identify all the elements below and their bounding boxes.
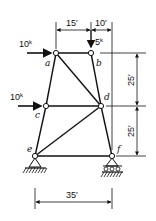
node-label-d: d (104, 92, 110, 102)
node-label-f: f (116, 144, 122, 154)
load-c-unit: k (20, 92, 24, 98)
right-dimensions (100, 53, 146, 156)
node-label-b: b (96, 58, 102, 68)
node-label-e: e (27, 144, 32, 154)
svg-text:10k: 10k (10, 92, 24, 102)
load-b: 5k (91, 30, 104, 47)
load-a: 10k (19, 39, 51, 53)
dim-top-right: 10′ (95, 18, 107, 28)
load-a-value: 10 (19, 39, 29, 49)
joint-a-icon (53, 50, 58, 55)
joint-d-icon (98, 103, 103, 108)
load-b-unit: k (100, 37, 104, 43)
dim-right-lower: 25′ (126, 125, 136, 137)
node-label-c: c (35, 110, 40, 120)
load-c-value: 10 (10, 92, 20, 102)
node-label-a: a (45, 58, 50, 68)
dim-bottom: 35′ (66, 190, 78, 200)
joint-c-icon (43, 103, 48, 108)
load-c: 10k (10, 92, 41, 106)
svg-text:10k: 10k (19, 39, 33, 49)
load-a-unit: k (29, 39, 33, 45)
pin-support-icon (23, 158, 47, 173)
member-ad (56, 53, 101, 106)
dim-top-left: 15′ (66, 18, 78, 28)
truss-diagram: a b c d e f (0, 0, 156, 221)
dim-right-upper: 25′ (126, 74, 136, 86)
member-df (101, 106, 112, 156)
svg-text:5k: 5k (95, 37, 104, 47)
roller-support-icon (101, 158, 123, 177)
joint-b-icon (88, 50, 93, 55)
